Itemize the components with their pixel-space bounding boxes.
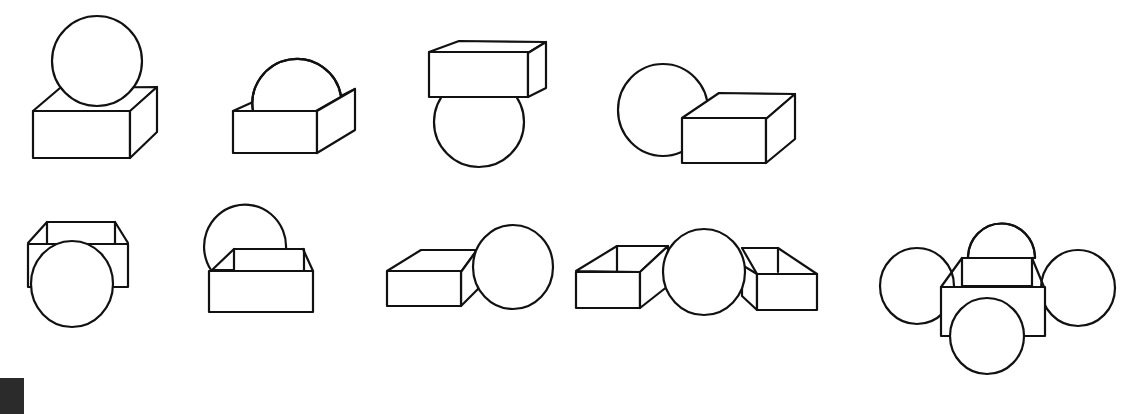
figure-5-sphere-front-open-box xyxy=(28,222,128,327)
figure-4-sphere-behind-box xyxy=(618,64,795,163)
figure-9-box-with-four-spheres xyxy=(880,223,1115,374)
figure-7-box-beside-sphere xyxy=(387,225,553,309)
figure-3-box-on-sphere xyxy=(429,41,546,167)
figure-1-sphere-on-box xyxy=(33,16,157,158)
figure-2-sphere-in-open-box xyxy=(233,59,355,153)
figure-6-sphere-behind-open-box xyxy=(204,205,313,312)
corner-marker xyxy=(0,378,24,414)
figure-canvas xyxy=(0,0,1131,414)
figure-8-sphere-between-open-boxes xyxy=(576,229,817,315)
